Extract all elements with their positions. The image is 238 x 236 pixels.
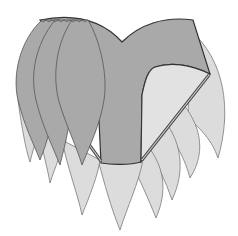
- illustration-stage: [0, 0, 238, 236]
- petal-light-center: [98, 160, 143, 230]
- garment-petal-illustration: [0, 0, 238, 236]
